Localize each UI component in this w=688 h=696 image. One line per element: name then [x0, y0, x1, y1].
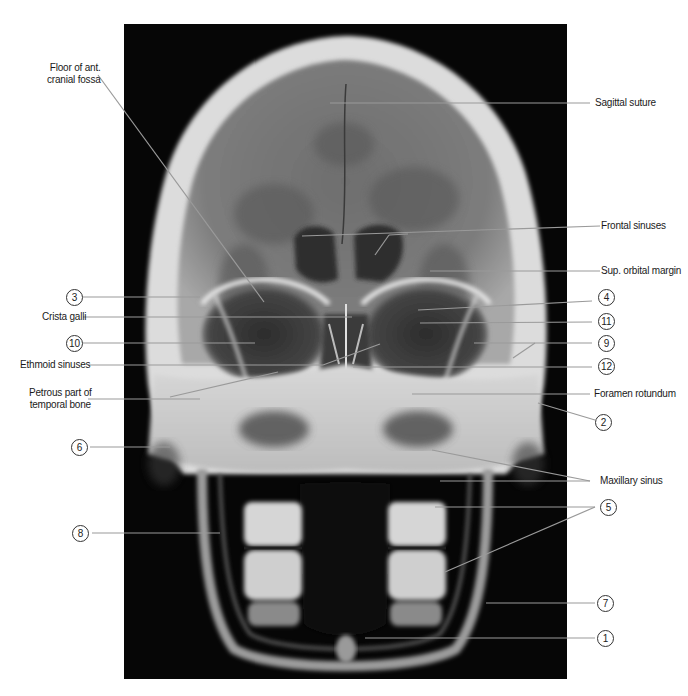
callout-number-6: 6: [71, 439, 88, 456]
label-foramen-rotundum: Foramen rotundum: [594, 388, 676, 400]
label-floor-of-ant-cranial-fossa: Floor of ant. cranial fossa: [47, 62, 101, 86]
label-petrous-part-of-temporal-bone: Petrous part of temporal bone: [29, 387, 92, 411]
callout-number-9: 9: [598, 335, 615, 352]
label-sup-orbital-margin: Sup. orbital margin: [601, 265, 681, 277]
callout-number-8: 8: [72, 525, 89, 542]
callout-number-2: 2: [595, 414, 612, 431]
skull-radiograph-image: [124, 24, 567, 679]
label-sagittal-suture: Sagittal suture: [595, 97, 656, 109]
label-maxillary-sinus: Maxillary sinus: [600, 475, 663, 487]
label-line-2: temporal bone: [29, 399, 92, 411]
label-line-1: Petrous part of: [29, 387, 92, 399]
callout-number-11: 11: [598, 313, 615, 330]
callout-number-3: 3: [66, 289, 83, 306]
callout-number-10: 10: [66, 335, 83, 352]
callout-number-1: 1: [597, 630, 614, 647]
callout-number-5: 5: [600, 499, 617, 516]
skull-xray-figure: Floor of ant. cranial fossa 3 Crista gal…: [0, 0, 688, 696]
callout-number-12: 12: [598, 358, 615, 375]
label-line-1: Floor of ant.: [47, 62, 101, 74]
callout-number-7: 7: [597, 595, 614, 612]
label-frontal-sinuses: Frontal sinuses: [601, 220, 666, 232]
callout-number-4: 4: [598, 289, 615, 306]
skull-illustration: [124, 24, 567, 679]
label-line-2: cranial fossa: [47, 74, 101, 86]
label-crista-galli: Crista galli: [42, 311, 86, 323]
label-ethmoid-sinuses: Ethmoid sinuses: [20, 359, 90, 371]
